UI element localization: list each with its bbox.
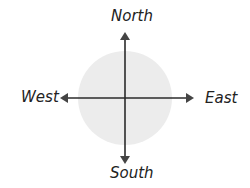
east-label: East xyxy=(205,91,237,106)
east-arrowhead-icon xyxy=(186,93,194,103)
west-arrowhead-icon xyxy=(60,93,68,103)
north-label: North xyxy=(111,9,153,24)
south-label: South xyxy=(110,166,154,181)
south-arrowhead-icon xyxy=(120,156,130,164)
west-label: West xyxy=(21,90,59,105)
north-arrowhead-icon xyxy=(120,32,130,40)
